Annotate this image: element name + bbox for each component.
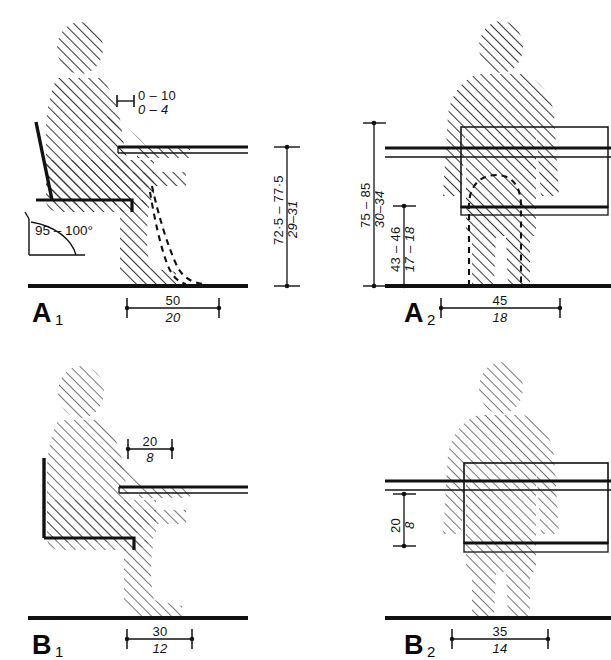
dim-desk-height-metric: 72·5 – 77·5: [271, 175, 286, 245]
panel-label-b2-letter: B: [404, 630, 424, 660]
dim-box-width-b2-imperial: 14: [492, 641, 507, 656]
dim-desk-clearance-metric: 0 – 10: [138, 88, 176, 103]
panel-label-b1-sub: 1: [55, 643, 63, 660]
dim-desk-height-a2-metric: 75 – 85: [358, 183, 373, 228]
dim-under-desk-a2-metric: 43 – 46: [388, 227, 403, 272]
technical-drawing: 0 – 10 0 – 4 95 – 100° 72·5 – 77·5 29–31: [0, 0, 611, 660]
dim-backrest-angle-value: 95 – 100°: [35, 223, 93, 238]
dim-knee-depth-metric: 50: [165, 293, 180, 308]
dim-desk-clearance-imperial: 0 – 4: [138, 102, 168, 117]
dim-foot-depth-b1-metric: 30: [152, 624, 167, 639]
figure-leg-left-b2: [472, 572, 496, 618]
figure-head-a1: [57, 22, 103, 74]
panel-label-b2-sub: 2: [427, 643, 435, 660]
dim-desk-height-a2-imperial: 30–34: [372, 190, 387, 228]
figure-head-a2: [479, 21, 523, 73]
dim-foot-depth-b1-imperial: 12: [152, 641, 168, 656]
figure-head-b1: [58, 366, 104, 418]
figure-leg-right-b2: [506, 572, 530, 618]
drawing-sheet: 0 – 10 0 – 4 95 – 100° 72·5 – 77·5 29–31: [0, 0, 611, 660]
dim-under-desk-a2-imperial: 17 – 18: [402, 226, 417, 272]
dim-knee-depth-imperial: 20: [164, 310, 181, 325]
panel-label-b1-letter: B: [32, 630, 52, 660]
dim-desk-height-imperial: 29–31: [285, 200, 300, 239]
panel-label-a2-letter: A: [404, 298, 424, 328]
dim-desk-overhang-b1-metric: 20: [142, 434, 157, 449]
panel-label-a1-sub: 1: [55, 311, 63, 328]
dim-drawer-height-b2-metric: 20: [388, 518, 403, 533]
dim-drawer-height-b2-imperial: 8: [402, 521, 417, 529]
figure-leg-left-a2: [472, 236, 496, 286]
dim-knee-width-a2-metric: 45: [492, 293, 507, 308]
panel-label-a1-letter: A: [32, 298, 52, 328]
figure-head-b2: [479, 362, 523, 414]
dim-knee-width-a2-imperial: 18: [492, 310, 508, 325]
dim-box-width-b2-metric: 35: [492, 624, 507, 639]
dim-desk-overhang-b1-imperial: 8: [146, 450, 154, 465]
figure-leg-right-a2: [506, 236, 530, 286]
panel-label-a2-sub: 2: [427, 311, 435, 328]
